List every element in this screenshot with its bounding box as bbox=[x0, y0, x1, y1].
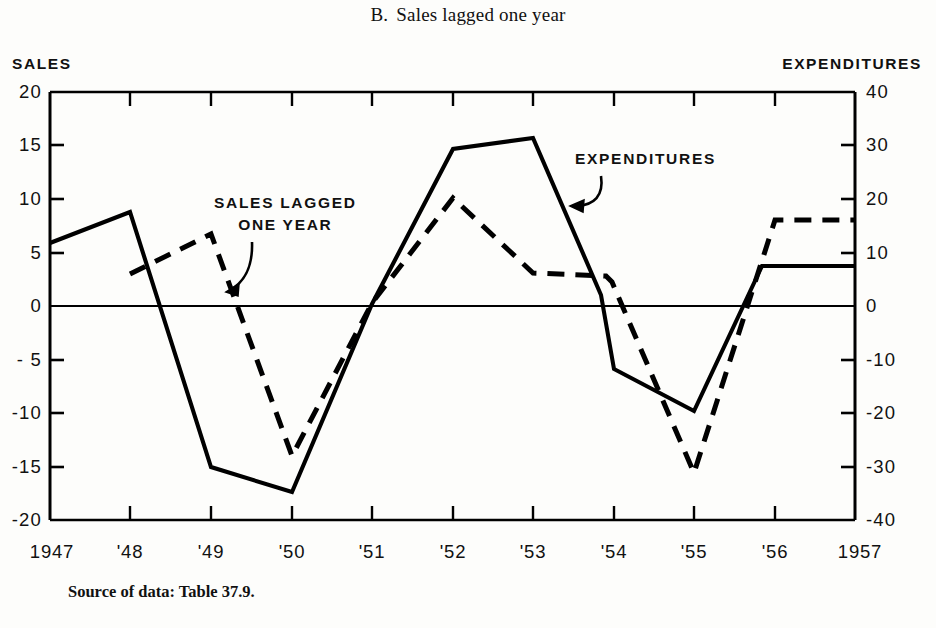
expenditures-arrow bbox=[570, 176, 602, 212]
annotation-sales-lagged-line2: ONE YEAR bbox=[214, 214, 357, 236]
annotation-expenditures: EXPENDITURES bbox=[575, 148, 716, 170]
series-expenditures-line bbox=[50, 138, 855, 492]
source-note: Source of data: Table 37.9. bbox=[68, 582, 255, 602]
axis-frame bbox=[50, 92, 855, 520]
bottom-axis-ticks bbox=[130, 506, 775, 520]
annotation-sales-lagged: SALES LAGGED ONE YEAR bbox=[214, 192, 357, 236]
top-axis-ticks bbox=[130, 92, 775, 106]
series-sales-lagged-line bbox=[130, 198, 855, 473]
plot-canvas bbox=[0, 0, 936, 628]
annotation-sales-lagged-line1: SALES LAGGED bbox=[214, 192, 357, 214]
figure-b-sales-lagged-one-year: B.Sales lagged one year SALES EXPENDITUR… bbox=[0, 0, 936, 628]
